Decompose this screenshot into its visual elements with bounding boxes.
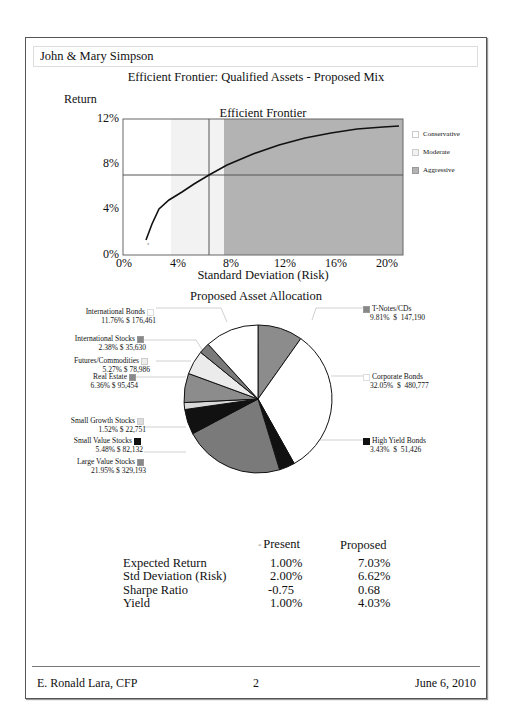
footer-divider bbox=[32, 666, 480, 667]
pie-label-high-yield: High Yield Bonds 3.43% $ 51,426 bbox=[361, 436, 426, 454]
footer-date: June 6, 2010 bbox=[415, 676, 476, 691]
summary-header-row: * Present Proposed bbox=[123, 538, 390, 554]
footer-page-number: 2 bbox=[253, 676, 259, 691]
pie-label-large-value: Large Value Stocks 21.95% $ 329,193 bbox=[56, 457, 146, 475]
summary-row: Sharpe Ratio-0.750.68 bbox=[123, 584, 390, 598]
pie-label-small-growth: Small Growth Stocks 1.52% $ 22,751 bbox=[56, 416, 146, 434]
report-page: John & Mary Simpson Efficient Frontier: … bbox=[25, 37, 487, 699]
pie-label-real-estate: Real Estate 6.36% $ 95,454 bbox=[60, 372, 138, 390]
col-present: Present bbox=[263, 537, 300, 551]
pie-label-small-value: Small Value Stocks 5.48% $ 82,132 bbox=[56, 436, 143, 454]
summary-row: Std Deviation (Risk)2.00%6.62% bbox=[123, 570, 390, 584]
pie-label-intl-stocks: International Stocks 2.38% $ 35,630 bbox=[64, 334, 146, 352]
summary-row: Expected Return1.00%7.03% bbox=[123, 557, 390, 571]
summary-table: * Present Proposed Expected Return1.00%7… bbox=[123, 538, 390, 611]
pie-label-intl-bonds: International Bonds 11.76% $ 176,461 bbox=[78, 307, 156, 325]
footer-advisor: E. Ronald Lara, CFP bbox=[37, 676, 137, 691]
col-proposed: Proposed bbox=[340, 538, 390, 554]
pie-label-corp-bonds: Corporate Bonds 32.05% $ 480,777 bbox=[361, 372, 429, 390]
pie-label-tnotes: T-Notes/CDs 9.81% $ 147,190 bbox=[361, 304, 425, 322]
summary-row: Yield1.00%4.03% bbox=[123, 597, 390, 611]
